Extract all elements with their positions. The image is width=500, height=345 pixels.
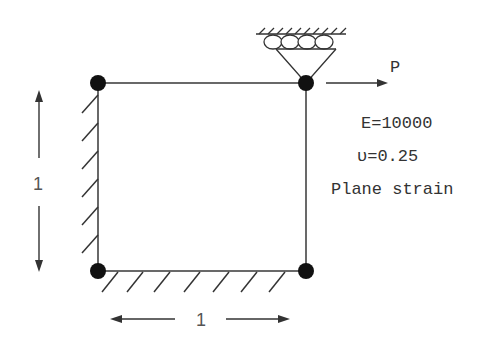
node-top-left xyxy=(90,75,106,91)
plane-strain-label: Plane strain xyxy=(331,180,453,199)
left-fixed-support xyxy=(82,95,98,253)
element-square xyxy=(98,83,306,271)
node-top-right xyxy=(298,75,314,91)
node-bottom-left xyxy=(90,263,106,279)
diagram-svg: P E=10000 υ=0.25 Plane strain 1 1 xyxy=(0,0,500,345)
load-label: P xyxy=(390,58,400,77)
nodes xyxy=(90,75,314,279)
node-bottom-right xyxy=(298,263,314,279)
bottom-fixed-support xyxy=(102,272,285,292)
roller-support xyxy=(256,28,346,83)
height-label: 1 xyxy=(33,174,43,194)
width-label: 1 xyxy=(196,310,206,330)
fe-diagram: P E=10000 υ=0.25 Plane strain 1 1 xyxy=(0,0,500,345)
youngs-modulus-label: E=10000 xyxy=(361,114,432,133)
poisson-ratio-label: υ=0.25 xyxy=(357,147,418,166)
load-arrow xyxy=(326,79,388,87)
